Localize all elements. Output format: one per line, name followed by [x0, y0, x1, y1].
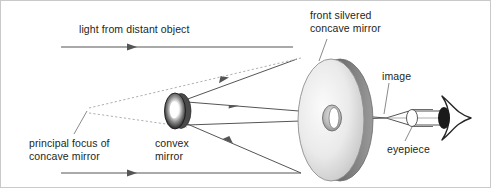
observer-eye — [438, 96, 471, 140]
label-principal-focus-line1: principal focus of — [29, 137, 110, 149]
ray-image-to-eyepiece-upper — [386, 111, 409, 118]
label-principal-focus-line2: concave mirror — [29, 150, 100, 162]
label-principal-focus: principal focus ofconcave mirror — [29, 137, 110, 162]
ray-convex-to-image-upper-arrowhead — [229, 105, 239, 109]
convex-mirror-highlight — [170, 102, 178, 119]
label-concave-mirror-line1: front silvered — [310, 9, 372, 21]
leader-line-image — [384, 83, 389, 114]
label-front-silvered-concave-mirror: front silveredconcave mirror — [310, 9, 381, 34]
incoming-ray-top-arrowhead — [127, 44, 137, 51]
reflected-ray-bottom — [185, 123, 301, 173]
concave-mirror — [298, 59, 373, 181]
leader-line-concave-mirror — [319, 39, 327, 61]
label-convex-mirror: convexmirror — [155, 137, 189, 162]
telescope-ray-diagram: light from distant object front silvered… — [0, 0, 491, 188]
reflected-ray-top — [185, 59, 297, 100]
eye-pupil — [438, 107, 450, 129]
label-convex-mirror-line1: convex — [155, 137, 189, 149]
label-eyepiece: eyepiece — [387, 143, 430, 156]
label-concave-mirror-line2: concave mirror — [310, 22, 381, 34]
label-light-from-distant-object: light from distant object — [79, 23, 189, 36]
dashed-virtual-rays-to-principal-focus — [89, 58, 301, 127]
dashed-ray-upper — [89, 58, 301, 108]
label-convex-mirror-line2: mirror — [155, 150, 183, 162]
concave-mirror-aperture-hole-inner — [329, 108, 339, 129]
leader-line-eyepiece — [405, 127, 412, 141]
reflected-ray-top-arrowhead — [219, 76, 229, 83]
reflected-rays-concave-to-convex — [185, 59, 301, 173]
leader-line-principal-focus — [74, 111, 87, 134]
label-image: image — [382, 70, 411, 83]
convex-mirror — [165, 93, 192, 129]
incoming-ray-bottom-arrowhead — [127, 170, 137, 177]
eyepiece-lens — [407, 110, 418, 127]
ray-image-to-eyepiece-lower — [386, 118, 409, 125]
